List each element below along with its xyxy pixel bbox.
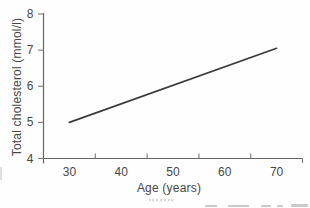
x-axis-title: Age (years) <box>137 181 201 195</box>
chart-figure: 456783040506070 Total cholesterol (mmol/… <box>0 0 310 208</box>
y-tick-label: 6 <box>27 79 34 93</box>
x-tick-label: 50 <box>166 165 180 179</box>
scan-edge-artifact <box>0 167 2 180</box>
regression-line <box>69 48 276 122</box>
x-tick-label: 70 <box>270 165 284 179</box>
y-tick-label: 7 <box>27 43 34 57</box>
y-tick-label: 8 <box>27 7 34 21</box>
x-tick-label: 30 <box>63 165 77 179</box>
plot-area: 456783040506070 <box>0 0 310 208</box>
x-tick-label: 60 <box>218 165 232 179</box>
x-tick-label: 40 <box>115 165 129 179</box>
y-tick-label: 4 <box>27 152 34 166</box>
y-axis-title: Total cholesterol (mmol/l) <box>10 18 24 157</box>
y-tick-label: 5 <box>27 115 34 129</box>
